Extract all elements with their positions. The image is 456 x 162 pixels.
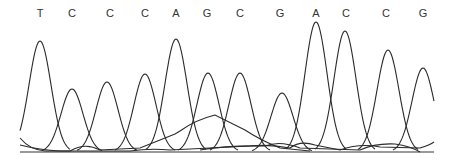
- base-label: C: [68, 7, 76, 19]
- base-label: G: [276, 7, 285, 19]
- base-label: A: [172, 7, 179, 19]
- peak-trace-C: [77, 82, 137, 150]
- base-label: G: [203, 7, 212, 19]
- trace-group: [20, 22, 434, 152]
- base-label: C: [342, 7, 350, 19]
- base-label: C: [141, 7, 149, 19]
- base-label: G: [419, 7, 428, 19]
- base-label: T: [37, 7, 44, 19]
- peak-trace-C: [358, 50, 418, 150]
- trace-plot: [0, 0, 456, 162]
- base-label: A: [312, 7, 319, 19]
- peak-trace-C: [115, 74, 175, 150]
- base-label: C: [382, 7, 390, 19]
- peak-trace-A: [146, 39, 206, 149]
- peak-trace-G: [252, 93, 312, 151]
- chromatogram: T C C C A G C G A C C G: [0, 0, 456, 162]
- peak-trace-C: [210, 73, 270, 150]
- peak-trace-A: [286, 22, 346, 149]
- peak-trace-G: [393, 68, 434, 150]
- base-label: C: [236, 7, 244, 19]
- peak-trace-T: [20, 41, 70, 149]
- base-label: C: [106, 7, 114, 19]
